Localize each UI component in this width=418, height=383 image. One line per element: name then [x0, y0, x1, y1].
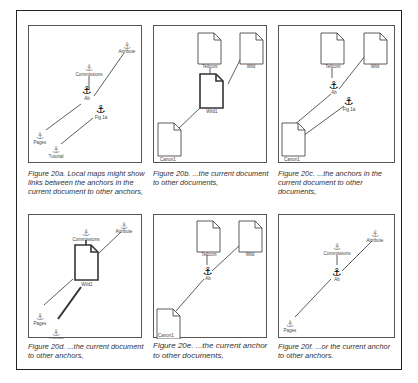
anchor-icon: ⚓ — [123, 41, 131, 51]
anchor-icon: ⚓ — [36, 312, 44, 322]
document-label: Tellcont — [201, 252, 217, 257]
panel-20f: Commissions Attribute Ab Pages ⚓ ⚓ ⚓ ⚓ — [278, 214, 395, 338]
document-label: Wild — [371, 64, 380, 69]
anchor-icon: ⚓ — [120, 221, 128, 231]
panel-20d: Commissions Attribute Wild1 Pages Tutori… — [28, 214, 142, 338]
anchor-icon: ⚓ — [329, 79, 339, 92]
anchor-icon: ⚓ — [52, 145, 60, 155]
document-label: Tellcont — [202, 64, 218, 69]
anchor-icon: ⚓ — [96, 103, 106, 116]
local-map-anchor-to-anchors: Commissions Attribute Ab Pages ⚓ ⚓ ⚓ ⚓ — [279, 215, 396, 339]
caption-20b: Figure 20b. ...the current document to o… — [153, 169, 271, 187]
caption-20a: Figure 20a. Local maps might show links … — [28, 169, 146, 196]
anchor-icon: ⚓ — [85, 63, 93, 73]
caption-20e: Figure 20e. ...the current anchor to oth… — [153, 341, 271, 361]
anchor-icon: ⚓ — [82, 84, 92, 97]
caption-20c: Figure 20c. ...the anchors in the curren… — [278, 169, 398, 196]
local-map-anchors-to-documents: Tellcont Wild Canon1 Ab Fig 1a ⚓ ⚓ — [279, 26, 396, 164]
caption-20f: Figure 20f. ...or the current anchor to … — [278, 342, 398, 360]
local-map-document-to-anchors: Commissions Attribute Wild1 Pages Tutori… — [29, 215, 143, 339]
document-label: Tellcont — [325, 64, 341, 69]
anchor-icon: ⚓ — [52, 328, 60, 338]
panel-20e: Tellcont Wild Canon1 Ab ⚓ — [153, 214, 267, 338]
caption-20d: Figure 20d. ...the current document to o… — [28, 342, 150, 360]
anchor-icon: ⚓ — [36, 131, 44, 141]
panel-20c: Tellcont Wild Canon1 Ab Fig 1a ⚓ ⚓ — [278, 25, 395, 163]
document-label: Wild — [247, 64, 256, 69]
anchor-icon: ⚓ — [203, 265, 213, 278]
local-map-anchors-to-anchors: Commissions Attribute Ab Fig 1a Pages Tu… — [29, 26, 143, 164]
document-label: Canon1 — [284, 157, 300, 162]
document-label: Wild — [246, 252, 255, 257]
anchor-icon: ⚓ — [333, 242, 341, 252]
anchor-icon: ⚓ — [344, 95, 354, 108]
anchor-icon: ⚓ — [371, 229, 379, 239]
document-label: Wild1 — [81, 282, 93, 287]
document-label: Canon1 — [158, 333, 174, 338]
anchor-icon: ⚓ — [82, 228, 90, 238]
anchor-icon: ⚓ — [332, 266, 342, 279]
local-map-document-to-documents: Tellcont Wild Wild1 Canon1 — [154, 26, 268, 164]
anchor-icon: ⚓ — [286, 319, 294, 329]
local-map-anchor-to-documents: Tellcont Wild Canon1 Ab ⚓ — [154, 215, 268, 339]
document-label: Wild1 — [206, 109, 218, 114]
document-label: Canon1 — [160, 157, 176, 162]
panel-20a: Commissions Attribute Ab Fig 1a Pages Tu… — [28, 25, 142, 163]
panel-20b: Tellcont Wild Wild1 Canon1 — [153, 25, 267, 163]
